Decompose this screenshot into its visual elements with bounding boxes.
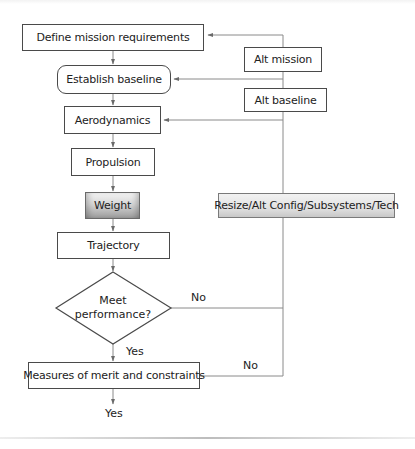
- alt-baseline-box: Alt baseline: [244, 88, 327, 112]
- decision-line1: Meet: [66, 294, 160, 308]
- aerodynamics-label: Aerodynamics: [75, 114, 150, 127]
- alt-mission-label: Alt mission: [254, 53, 312, 66]
- establish-baseline-label: Establish baseline: [66, 73, 162, 86]
- decision-line2: performance?: [66, 308, 160, 322]
- bottom-separator: [0, 437, 415, 439]
- trajectory-box: Trajectory: [57, 232, 170, 259]
- propulsion-box: Propulsion: [71, 148, 155, 176]
- measures-label: Measures of merit and constraints: [23, 369, 205, 382]
- weight-label: Weight: [94, 199, 131, 212]
- measures-no-label: No: [243, 359, 258, 372]
- resize-alt-config-box: Resize/Alt Config/Subsystems/Tech: [218, 193, 395, 218]
- flowchart-canvas: Define mission requirements Establish ba…: [0, 0, 415, 449]
- alt-baseline-label: Alt baseline: [254, 94, 316, 107]
- establish-baseline-box: Establish baseline: [57, 65, 171, 94]
- measures-yes-label: Yes: [105, 407, 123, 420]
- propulsion-label: Propulsion: [86, 156, 141, 169]
- aerodynamics-box: Aerodynamics: [64, 106, 161, 134]
- trajectory-label: Trajectory: [87, 239, 139, 252]
- decision-yes-label: Yes: [126, 345, 144, 358]
- alt-mission-box: Alt mission: [244, 47, 322, 72]
- weight-box: Weight: [85, 192, 140, 219]
- measures-of-merit-box: Measures of merit and constraints: [28, 362, 200, 389]
- decision-text: Meet performance?: [66, 294, 160, 322]
- define-mission-label: Define mission requirements: [36, 31, 189, 44]
- resize-label: Resize/Alt Config/Subsystems/Tech: [214, 199, 399, 212]
- decision-no-label: No: [191, 291, 206, 304]
- define-mission-requirements-box: Define mission requirements: [22, 24, 204, 51]
